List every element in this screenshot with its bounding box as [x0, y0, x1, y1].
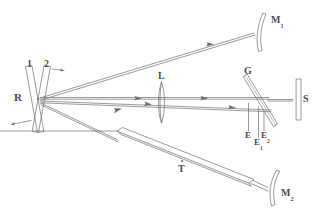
- beam-r-to-m1: [40, 33, 255, 100]
- label-mirror-m1: M1: [271, 15, 284, 27]
- label-mirror-m1-subscript: 1: [280, 22, 283, 29]
- slit-s: [297, 79, 302, 120]
- label-electrode-2: 2: [44, 59, 49, 69]
- label-detector-e: E: [245, 131, 251, 140]
- label-lens-l: L: [158, 71, 165, 81]
- label-mirror-m2-subscript: 2: [290, 195, 293, 202]
- label-electrode-1: 1: [27, 59, 32, 69]
- diagram-canvas: [0, 0, 316, 219]
- exit-beam-left-arrow: [11, 121, 31, 125]
- beam-g-to-slit: [268, 100, 293, 102]
- tube-center-marker: [181, 160, 183, 162]
- beam-r-to-tube: [41, 103, 122, 142]
- label-mirror-m2: M2: [281, 188, 294, 200]
- beam-r-to-lens-lower: [40, 101, 271, 112]
- absorption-tube-t: [0, 128, 254, 187]
- optical-diagram-figure: 1 2 R M1 L G S E E1 E2 T M2: [0, 0, 316, 219]
- label-detector-e2-subscript: 2: [267, 138, 270, 144]
- mirror-m2: [270, 171, 279, 207]
- electrode-2-pointer-arrow: [52, 69, 64, 71]
- label-slit-s: S: [303, 94, 309, 104]
- mirror-m1: [257, 14, 266, 52]
- label-detector-e1-subscript: 1: [260, 145, 263, 151]
- lens-l: [159, 82, 165, 123]
- label-source-r: R: [14, 92, 22, 103]
- label-detector-e2: E2: [261, 131, 270, 142]
- beam-r-to-lens-upper: [40, 96, 269, 101]
- label-tube-t: T: [178, 164, 185, 174]
- source-r-focal-point: [37, 98, 39, 100]
- beam-tube-to-m2: [251, 181, 268, 192]
- label-grating-g: G: [244, 66, 252, 76]
